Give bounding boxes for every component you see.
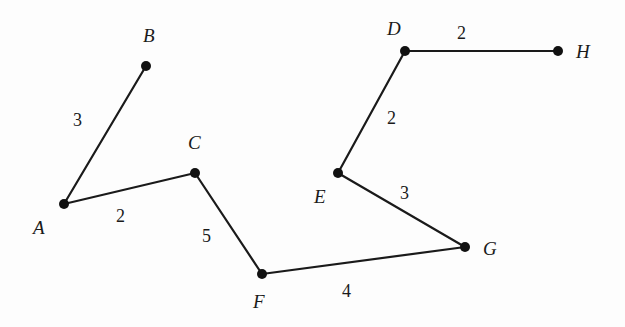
node-label-f: F — [252, 291, 265, 312]
node-c — [190, 168, 200, 178]
edge-a-c — [64, 173, 195, 204]
edge-weight-e-g: 3 — [400, 183, 409, 203]
edge-weight-a-c: 2 — [116, 206, 125, 226]
edge-weight-c-f: 5 — [202, 226, 211, 246]
node-label-d: D — [386, 18, 401, 39]
edge-a-b — [64, 66, 146, 204]
node-label-c: C — [188, 132, 201, 153]
edge-f-g — [262, 247, 465, 274]
node-f — [257, 269, 267, 279]
node-label-h: H — [575, 41, 591, 62]
node-a — [59, 199, 69, 209]
edge-weight-d-h: 2 — [457, 23, 466, 43]
edge-weight-a-b: 3 — [73, 110, 82, 130]
node-label-e: E — [313, 186, 326, 207]
node-label-a: A — [31, 217, 45, 238]
edge-weight-f-g: 4 — [342, 281, 351, 301]
node-label-b: B — [143, 25, 155, 46]
node-b — [141, 61, 151, 71]
graph-diagram: 3254322ABCDEFGH — [0, 0, 625, 327]
node-e — [333, 168, 343, 178]
edge-weight-d-e: 2 — [387, 108, 396, 128]
node-h — [553, 46, 563, 56]
graph-svg: 3254322ABCDEFGH — [0, 0, 625, 327]
node-label-g: G — [483, 238, 497, 259]
node-g — [460, 242, 470, 252]
edge-c-f — [195, 173, 262, 274]
node-d — [400, 46, 410, 56]
